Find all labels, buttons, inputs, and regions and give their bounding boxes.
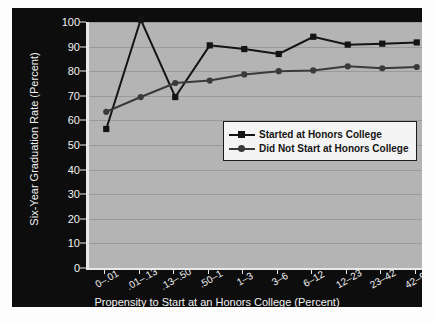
x-axis-tick-label: 6–12: [302, 268, 327, 289]
y-axis-tick-mark: [80, 71, 86, 72]
data-point-marker: [379, 65, 385, 71]
y-axis-tick-mark: [80, 95, 86, 96]
legend-label-started: Started at Honors College: [259, 129, 382, 140]
x-axis-title: Propensity to Start at an Honors College…: [12, 296, 422, 307]
data-point-marker: [103, 109, 109, 115]
x-axis-tick-mark: [208, 269, 209, 274]
data-point-marker: [172, 80, 178, 86]
legend-entry-did-not-start[interactable]: Did Not Start at Honors College: [229, 141, 408, 155]
data-point-marker: [345, 42, 351, 48]
y-axis-tick-mark: [80, 22, 86, 23]
data-point-marker: [345, 63, 351, 69]
y-axis-tick-mark: [80, 145, 86, 146]
data-point-marker: [241, 71, 247, 77]
x-axis-tick-mark: [139, 269, 140, 274]
y-axis-tick-mark: [80, 120, 86, 121]
data-point-marker: [207, 77, 213, 83]
x-axis-tick-mark: [380, 269, 381, 274]
x-axis-tick-mark: [277, 269, 278, 274]
y-axis-tick-label: 40: [68, 164, 80, 175]
y-axis-tick-mark: [80, 268, 86, 269]
x-axis-tick-mark: [311, 269, 312, 274]
x-axis-tick-label: 0–.01: [93, 268, 120, 290]
chart-panel: 0102030405060708090100 Six-Year Graduati…: [12, 8, 422, 307]
figure-container: 0102030405060708090100 Six-Year Graduati…: [0, 0, 434, 322]
legend-label-did-not-start: Did Not Start at Honors College: [259, 143, 408, 154]
x-axis-tick-label: 1–3: [235, 270, 255, 288]
y-axis-tick-label: 70: [68, 90, 80, 101]
legend-entry-started[interactable]: Started at Honors College: [229, 127, 408, 141]
y-axis-tick-label: 10: [68, 238, 80, 249]
y-axis-tick-mark: [80, 46, 86, 47]
x-axis-tick-label: 12–23: [334, 267, 364, 290]
y-axis-tick-label: 20: [68, 213, 80, 224]
series-line-2: [106, 66, 417, 112]
y-axis-tick-mark: [80, 194, 86, 195]
data-point-marker: [310, 67, 316, 73]
legend-marker-square-icon: [229, 128, 255, 140]
legend-marker-circle-icon: [229, 142, 255, 154]
y-axis-tick-label: 100: [62, 17, 80, 28]
y-axis-title: Six-Year Graduation Rate (Percent): [28, 39, 40, 239]
data-point-marker: [276, 68, 282, 74]
chart-legend: Started at Honors College Did Not Start …: [223, 121, 417, 161]
x-axis-tick-mark: [242, 269, 243, 274]
y-axis-tick-mark: [80, 218, 86, 219]
y-axis-tick-label: 60: [68, 115, 80, 126]
y-axis-tick-labels: 0102030405060708090100: [40, 8, 80, 307]
y-axis-tick-label: 50: [68, 140, 80, 151]
x-axis-tick-mark: [104, 269, 105, 274]
data-point-marker: [207, 42, 213, 48]
x-axis-tick-mark: [346, 269, 347, 274]
y-axis-line: [86, 22, 88, 270]
x-axis-tick-label: 3–6: [270, 270, 290, 288]
x-axis-tick-label: 23–42: [368, 267, 398, 290]
x-axis-tick-label: 42–97: [403, 267, 422, 290]
x-axis-tick-mark: [173, 269, 174, 274]
x-axis-tick-mark: [415, 269, 416, 274]
data-point-marker: [276, 51, 282, 57]
y-axis-tick-label: 90: [68, 41, 80, 52]
y-axis-tick-label: 80: [68, 66, 80, 77]
series-line-1: [106, 20, 417, 129]
y-axis-tick-mark: [80, 169, 86, 170]
y-axis-tick-mark: [80, 243, 86, 244]
data-point-marker: [138, 94, 144, 100]
x-axis-tick-label: .50–1: [197, 268, 224, 290]
data-point-marker: [310, 34, 316, 40]
data-point-marker: [414, 64, 420, 70]
y-axis-tick-label: 30: [68, 189, 80, 200]
data-point-marker: [103, 126, 109, 132]
data-point-marker: [379, 41, 385, 47]
data-point-marker: [414, 39, 420, 45]
data-point-marker: [241, 46, 247, 52]
data-point-marker: [172, 94, 178, 100]
x-axis-line: [87, 268, 422, 270]
data-point-marker: [138, 16, 144, 22]
